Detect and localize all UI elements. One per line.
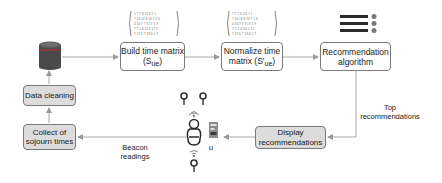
beacon-icon xyxy=(200,93,206,105)
smartphone-icon xyxy=(209,122,218,138)
normalize-time-matrix-label: Normalize time xyxy=(224,46,281,56)
svg-text:7 27 6 7 18 6 1 7: 7 27 6 7 18 6 1 7 xyxy=(134,32,158,36)
data-cleaning-node[interactable]: Data cleaning xyxy=(23,85,76,106)
display-recommendations-node[interactable]: Display recommendations xyxy=(255,126,326,149)
recommendation-algorithm-line2: algorithm xyxy=(338,57,373,67)
svg-text:7 10 14 8 10 7 1 6: 7 10 14 8 10 7 1 6 xyxy=(134,17,160,21)
collect-sojourn-times-node[interactable]: Collect of sojourn times xyxy=(23,124,76,150)
build-time-matrix-label: Build time matrix xyxy=(121,46,184,56)
svg-text:4 10 7 7 3 17 1 9: 4 10 7 7 3 17 1 9 xyxy=(232,22,256,26)
collect-sojourn-times-line2: sojourn times xyxy=(26,137,74,147)
person-icon xyxy=(187,120,200,146)
arrow-rec-to-display xyxy=(328,71,356,137)
user-label: u xyxy=(207,143,215,152)
wifi-signal-icon xyxy=(189,112,199,117)
svg-text:7 7 1 6 3 6 7 1: 7 7 1 6 3 6 7 1 xyxy=(232,12,253,16)
collect-sojourn-times-line1: Collect of xyxy=(33,128,66,138)
build-time-matrix-symbol: (Sue) xyxy=(143,56,162,67)
matrix-icon: 1 7 7 6 11 6 7 1 7 10 14 8 10 7 1 6 4 10… xyxy=(128,10,180,37)
svg-text:7 27 6 7 18 6 1 7: 7 27 6 7 18 6 1 7 xyxy=(232,32,256,36)
display-recommendations-line1: Display xyxy=(277,128,303,138)
beacon-icon xyxy=(191,160,197,172)
svg-text:7 7 1 4 3 6 1 17: 7 7 1 4 3 6 1 17 xyxy=(232,27,254,31)
normalize-time-matrix-node[interactable]: Normalize time matrix (S'ue) xyxy=(221,42,283,71)
recommendation-algorithm-line1: Recommendation xyxy=(322,47,389,57)
beacon-readings-label: Beacon readings xyxy=(115,143,155,161)
wifi-signal-icon xyxy=(190,151,198,157)
normalize-time-matrix-symbol: matrix (S'ue) xyxy=(229,56,275,67)
svg-text:1 7 7 6 11 6 7 1: 1 7 7 6 11 6 7 1 xyxy=(134,12,156,16)
build-time-matrix-node[interactable]: Build time matrix (Sue) xyxy=(120,42,185,71)
ranked-list-icon xyxy=(340,14,377,33)
recommendation-algorithm-node[interactable]: Recommendation algorithm xyxy=(320,42,391,71)
beacon-icon xyxy=(181,93,187,105)
svg-text:7 10 14 8 10 7 1 6: 7 10 14 8 10 7 1 6 xyxy=(232,17,258,21)
svg-text:4 10 7 7 3 17 1 9: 4 10 7 7 3 17 1 9 xyxy=(134,22,158,26)
top-recommendations-label: Top recommendations xyxy=(357,103,423,121)
display-recommendations-line2: recommendations xyxy=(259,138,323,148)
database-icon xyxy=(39,42,61,71)
svg-text:7 7 1 6 11 3 17 6: 7 7 1 6 11 3 17 6 xyxy=(134,27,158,31)
matrix-icon: 7 7 1 6 3 6 7 1 7 10 14 8 10 7 1 6 4 10 … xyxy=(226,10,278,37)
data-cleaning-label: Data cleaning xyxy=(25,91,74,101)
